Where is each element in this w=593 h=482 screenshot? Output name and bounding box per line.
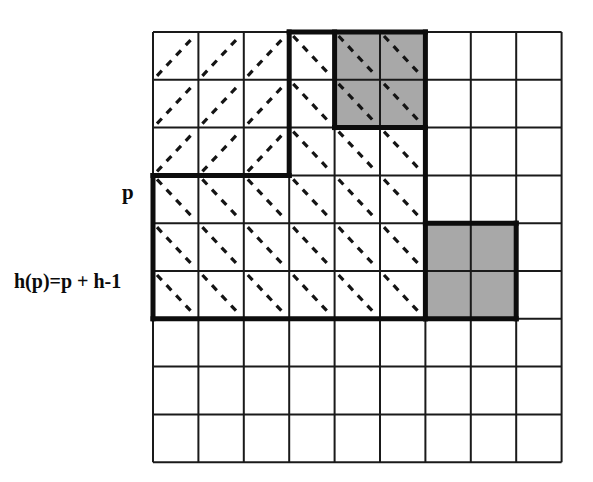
shaded-cell [471, 223, 516, 271]
label-h-of-p-formula: h(p)=p + h-1 [14, 270, 121, 293]
shaded-cell [425, 223, 470, 271]
label-p: p [122, 180, 134, 205]
grid-diagram: p h(p)=p + h-1 [0, 0, 593, 482]
shaded-cell [425, 271, 470, 319]
shaded-cell [471, 271, 516, 319]
grid-svg-canvas [0, 0, 593, 482]
